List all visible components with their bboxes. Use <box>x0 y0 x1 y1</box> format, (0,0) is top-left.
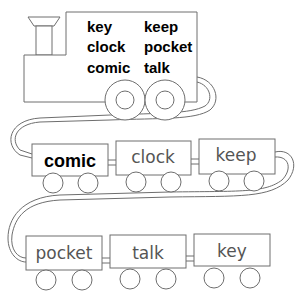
car-label: keep <box>216 145 257 165</box>
train-car: pocket <box>26 236 102 290</box>
car-label: comic <box>44 151 96 171</box>
car-label: talk <box>132 243 164 263</box>
car-wheel <box>161 172 181 192</box>
word-bank-item: talk <box>144 59 171 76</box>
word-bank-item: pocket <box>144 38 192 55</box>
car-wheel <box>209 171 229 191</box>
car-row-1: comic clock keep <box>32 139 275 193</box>
smokestack <box>36 26 52 55</box>
car-wheel <box>78 173 98 193</box>
car-wheel <box>126 172 146 192</box>
car-label: clock <box>131 147 175 167</box>
train-car: talk <box>110 235 186 289</box>
word-bank-item: keep <box>144 18 178 35</box>
train-diagram: key keep clock pocket comic talk comic c… <box>0 0 303 299</box>
car-label: key <box>217 241 247 261</box>
car-wheel <box>156 269 176 289</box>
word-bank-item: key <box>87 18 113 35</box>
car-wheel <box>204 268 224 288</box>
car-wheel <box>36 270 56 290</box>
car-row-2: pocket talk key <box>26 234 270 290</box>
car-wheel <box>244 171 264 191</box>
word-bank-item: comic <box>87 59 130 76</box>
smokestack-top <box>28 17 60 26</box>
train-car: keep <box>199 139 275 191</box>
car-wheel <box>120 269 140 289</box>
car-wheel <box>43 173 63 193</box>
car-wheel <box>240 268 260 288</box>
train-car: key <box>194 234 270 288</box>
word-bank-item: clock <box>87 38 126 55</box>
car-wheel <box>72 270 92 290</box>
car-label: pocket <box>36 243 93 263</box>
train-car: comic <box>32 144 108 193</box>
train-car: clock <box>116 141 191 192</box>
